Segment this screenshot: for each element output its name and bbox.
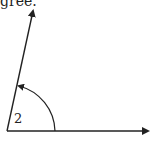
rotation-arc-arrow (19, 86, 55, 131)
angle-diagram (0, 0, 150, 153)
angle-label: 2 (14, 111, 22, 126)
